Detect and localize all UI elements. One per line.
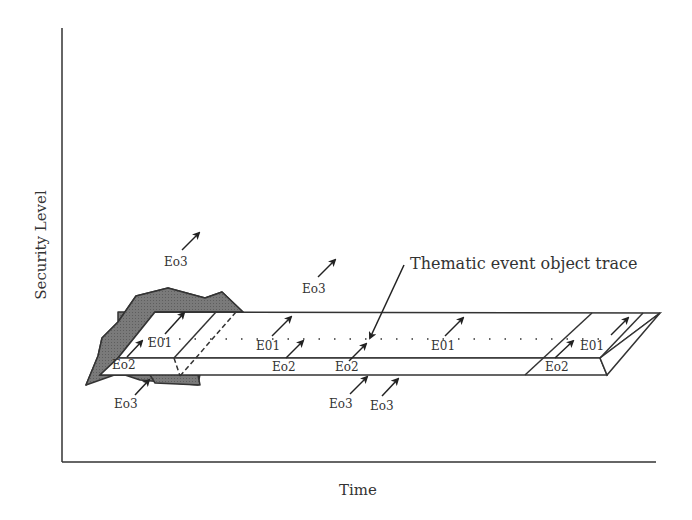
arrow-icon [350,377,367,394]
x-axis-label: Time [339,481,377,499]
arrow-icon [135,380,149,395]
security-level-time-diagram: Security Level Time Thematic [0,0,692,520]
event-label: E01 [148,336,172,350]
event-label: Eo2 [335,360,359,374]
y-axis-label: Security Level [32,190,50,300]
event-label: Eo3 [164,255,188,269]
event-label: Eo3 [114,397,138,411]
event-label: Eo3 [302,282,326,296]
arrow-icon [382,379,398,396]
event-label: E01 [580,339,604,353]
axes [62,28,656,462]
arrow-icon [318,260,335,277]
annotation-label: Thematic event object trace [410,254,637,273]
event-label: Eo2 [112,358,136,372]
event-label: Eo3 [370,399,394,413]
slab-top-face [118,312,660,358]
event-label: Eo3 [329,397,353,411]
arrow-icon [182,233,199,250]
event-label: E01 [256,339,280,353]
event-trace-slab [100,312,660,376]
event-label: Eo2 [272,360,296,374]
event-label: E01 [431,339,455,353]
event-label: Eo2 [545,360,569,374]
